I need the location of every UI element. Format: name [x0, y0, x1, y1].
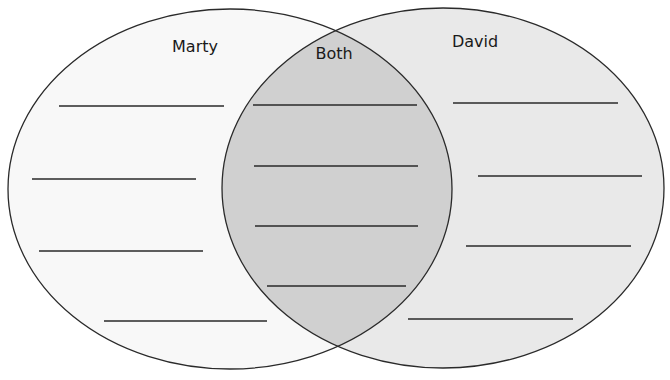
both-label: Both	[315, 44, 352, 63]
marty-label: Marty	[172, 37, 218, 56]
venn-diagram: Marty Both David	[0, 0, 670, 380]
david-label: David	[452, 32, 498, 51]
